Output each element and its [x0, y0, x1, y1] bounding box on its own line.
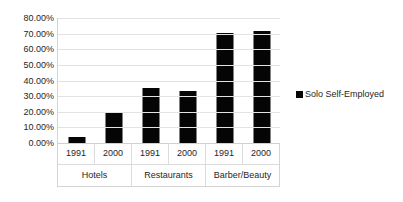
square-marker-icon — [296, 91, 303, 98]
y-axis-tick-label: 0.00% — [0, 139, 54, 148]
plot-area — [57, 18, 280, 143]
gridline — [58, 49, 280, 50]
x-axis-year-label: 2000 — [95, 143, 132, 164]
x-axis: 199120001991200019912000 HotelsRestauran… — [57, 143, 280, 187]
gridline — [58, 96, 280, 97]
bar — [179, 91, 196, 143]
x-axis-year-label: 2000 — [169, 143, 206, 164]
gridline — [58, 112, 280, 113]
gridline — [58, 127, 280, 128]
gridline — [58, 18, 280, 19]
y-axis-tick-label: 30.00% — [0, 92, 54, 101]
gridline — [58, 34, 280, 35]
y-axis-tick-label: 40.00% — [0, 76, 54, 85]
y-axis-tick-label: 20.00% — [0, 107, 54, 116]
y-axis-tick-label: 80.00% — [0, 14, 54, 23]
x-axis-group-label: Hotels — [58, 165, 132, 186]
x-axis-year-label: 1991 — [132, 143, 169, 164]
x-axis-group-label: Barber/Beauty — [206, 165, 279, 186]
bar-chart: 80.00%70.00%60.00%50.00%40.00%30.00%20.0… — [0, 0, 403, 202]
y-axis-tick-label: 50.00% — [0, 60, 54, 69]
legend-item-label: Solo Self-Employed — [305, 90, 384, 99]
x-axis-year-label: 1991 — [206, 143, 243, 164]
x-axis-group-row: HotelsRestaurantsBarber/Beauty — [58, 165, 279, 186]
y-axis: 80.00%70.00%60.00%50.00%40.00%30.00%20.0… — [0, 0, 54, 148]
chart-legend: Solo Self-Employed — [296, 90, 384, 99]
gridline — [58, 81, 280, 82]
x-axis-year-label: 2000 — [243, 143, 279, 164]
bar — [253, 31, 270, 143]
y-axis-tick-label: 10.00% — [0, 123, 54, 132]
x-axis-year-label: 1991 — [58, 143, 95, 164]
y-axis-tick-label: 60.00% — [0, 45, 54, 54]
x-axis-group-label: Restaurants — [132, 165, 206, 186]
y-axis-tick-label: 70.00% — [0, 29, 54, 38]
x-axis-year-row: 199120001991200019912000 — [58, 143, 279, 165]
gridline — [58, 65, 280, 66]
